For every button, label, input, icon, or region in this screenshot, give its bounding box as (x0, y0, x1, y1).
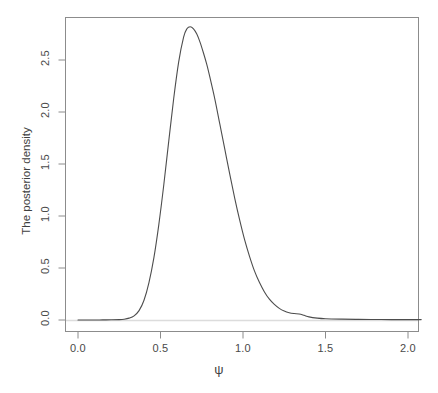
plot-canvas (0, 0, 438, 393)
y-tick-label: 2.0 (39, 92, 51, 128)
y-tick-label: 0.5 (39, 248, 51, 284)
y-tick-label: 1.0 (39, 196, 51, 232)
y-tick-label: 2.5 (39, 40, 51, 76)
x-tick-label: 2.0 (390, 342, 426, 354)
x-tick-label: 1.0 (225, 342, 261, 354)
y-tick-label: 1.5 (39, 144, 51, 180)
x-tick-label: 0.0 (60, 342, 96, 354)
x-tick-label: 0.5 (143, 342, 179, 354)
plot-border (66, 18, 419, 332)
y-axis-title: The posterior density (20, 111, 32, 251)
y-tick-label: 0.0 (39, 300, 51, 336)
x-axis-title: ψ (0, 362, 438, 377)
x-tick-label: 1.5 (308, 342, 344, 354)
y-axis-ticks (59, 60, 66, 320)
posterior-density-curve (78, 27, 421, 320)
density-plot-figure: 0.00.51.01.52.0 0.00.51.01.52.02.5 The p… (0, 0, 438, 393)
x-axis-ticks (78, 332, 408, 339)
